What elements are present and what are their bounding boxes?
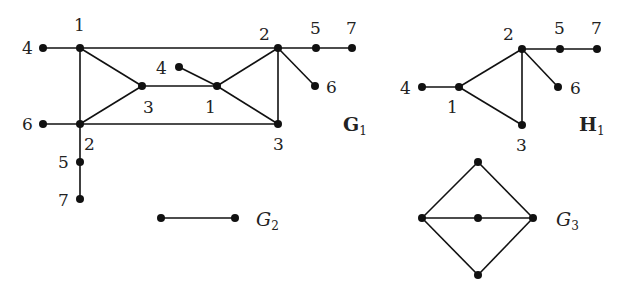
vertex-label: 6 — [570, 78, 581, 98]
edge — [478, 218, 533, 275]
vertex-label: 7 — [591, 18, 602, 38]
vertex-label: 1 — [74, 15, 85, 35]
vertex-label: 3 — [143, 97, 154, 117]
vertex — [76, 195, 84, 203]
graph-diagram-canvas: 41362574125763G14125763H1G2G3 — [0, 0, 629, 295]
vertex — [76, 44, 84, 52]
graph-g3: G3 — [418, 158, 579, 279]
vertex — [274, 120, 282, 128]
vertex — [556, 45, 564, 53]
graph-g1: 41362574125763G1 — [22, 15, 367, 210]
vertex-label: 5 — [310, 18, 321, 38]
edge — [179, 67, 217, 86]
edge — [478, 162, 533, 218]
graph-label: G2 — [256, 208, 279, 233]
vertex — [157, 214, 165, 222]
edge — [278, 48, 315, 86]
vertex-label: 1 — [447, 97, 458, 117]
vertex — [455, 83, 463, 91]
vertex — [213, 82, 221, 90]
edge — [80, 48, 142, 86]
vertex-label: 4 — [22, 38, 33, 58]
vertex — [518, 121, 526, 129]
edge — [459, 87, 522, 125]
edge — [80, 86, 142, 124]
vertex — [593, 45, 601, 53]
graph-g2: G2 — [157, 208, 279, 233]
vertex — [474, 158, 482, 166]
graph-h1: 4125763H1 — [400, 18, 605, 155]
edge — [522, 49, 558, 87]
vertex — [311, 82, 319, 90]
vertex-label: 2 — [84, 134, 95, 154]
vertex — [274, 44, 282, 52]
vertex-label: 6 — [326, 77, 337, 97]
vertex-label: 4 — [400, 78, 411, 98]
vertex — [418, 214, 426, 222]
vertex — [518, 45, 526, 53]
vertex-label: 1 — [205, 97, 216, 117]
vertex-label: 5 — [554, 18, 565, 38]
graph-label: G1 — [343, 113, 367, 138]
vertex — [175, 63, 183, 71]
vertex — [474, 271, 482, 279]
vertex-label: 7 — [58, 190, 69, 210]
vertex — [474, 214, 482, 222]
edge — [217, 48, 278, 86]
vertex-label: 6 — [22, 114, 33, 134]
edge — [422, 218, 478, 275]
vertex — [529, 214, 537, 222]
vertex-label: 7 — [346, 18, 357, 38]
graph-label: H1 — [579, 113, 605, 138]
vertex — [39, 120, 47, 128]
graph-label: G3 — [556, 208, 579, 233]
vertex — [312, 44, 320, 52]
vertex-label: 2 — [259, 24, 270, 44]
vertex — [39, 44, 47, 52]
vertex — [138, 82, 146, 90]
vertex — [554, 83, 562, 91]
vertex — [76, 158, 84, 166]
vertex-label: 4 — [156, 58, 167, 78]
vertex-label: 3 — [273, 134, 284, 154]
edge — [217, 86, 278, 124]
vertex — [418, 83, 426, 91]
vertex-label: 3 — [516, 135, 527, 155]
vertex — [231, 214, 239, 222]
vertex-label: 5 — [58, 152, 69, 172]
edge — [459, 49, 522, 87]
vertex-label: 2 — [503, 24, 514, 44]
vertex — [348, 44, 356, 52]
vertex — [76, 120, 84, 128]
edge — [422, 162, 478, 218]
